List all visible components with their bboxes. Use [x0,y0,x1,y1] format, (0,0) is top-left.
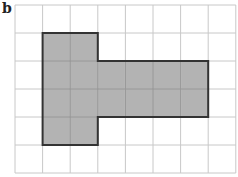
shaded-cell [43,61,71,89]
shaded-cell [153,61,181,89]
shaded-cell [181,61,209,89]
shaded-cell [43,33,71,61]
shaded-cell [98,89,126,117]
shaded-cell [125,61,153,89]
grid-diagram [0,0,238,177]
shaded-cell [43,117,71,145]
shaded-cell [70,33,98,61]
shaded-cell [125,89,153,117]
shaded-cell [70,61,98,89]
shaded-cell [153,89,181,117]
shaded-cell [70,89,98,117]
shaded-cell [70,117,98,145]
shaded-cell [181,89,209,117]
shaded-cell [43,89,71,117]
shaded-cell [98,61,126,89]
